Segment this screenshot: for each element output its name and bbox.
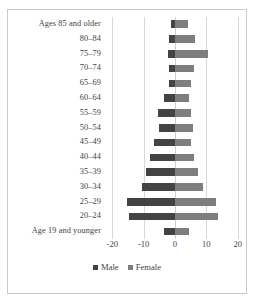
row-plot-area <box>106 135 244 150</box>
chart-frame: Ages 85 and older80–8475–7970–7465–6960–… <box>7 9 247 294</box>
legend-item-female[interactable]: Female <box>128 262 161 272</box>
age-group-label: 35–39 <box>8 165 101 180</box>
pyramid-row: 40–44 <box>8 150 246 165</box>
pyramid-row: 35–39 <box>8 165 246 180</box>
row-plot-area <box>106 76 244 91</box>
row-plot-area <box>106 121 244 136</box>
pyramid-row: 45–49 <box>8 135 246 150</box>
age-group-label: 20–24 <box>8 209 101 224</box>
pyramid-row: 55–59 <box>8 106 246 121</box>
square-swatch-icon <box>128 265 133 270</box>
bar-female <box>175 94 189 102</box>
legend-label: Female <box>136 262 161 272</box>
pyramid-row: 70–74 <box>8 61 246 76</box>
row-plot-area <box>106 106 244 121</box>
age-group-label: 65–69 <box>8 76 101 91</box>
legend-item-male[interactable]: Male <box>93 262 119 272</box>
bar-female <box>175 80 191 88</box>
row-plot-area <box>106 61 244 76</box>
chart-legend: MaleFemale <box>8 262 246 272</box>
bar-female <box>175 228 189 236</box>
pyramid-row: 20–24 <box>8 209 246 224</box>
row-plot-area <box>106 224 244 239</box>
bar-female <box>175 183 203 191</box>
pyramid-row: 25–29 <box>8 195 246 210</box>
bar-male <box>158 109 175 117</box>
age-group-label: 25–29 <box>8 195 101 210</box>
pyramid-row: 30–34 <box>8 180 246 195</box>
age-group-label: 45–49 <box>8 135 101 150</box>
bar-female <box>175 65 194 73</box>
row-plot-area <box>106 17 244 32</box>
bar-male <box>164 228 175 236</box>
pyramid-rows: Ages 85 and older80–8475–7970–7465–6960–… <box>8 17 246 239</box>
age-group-label: 30–34 <box>8 180 101 195</box>
bar-male <box>154 139 175 147</box>
row-plot-area <box>106 32 244 47</box>
bar-male <box>159 124 175 132</box>
x-tick-label: 20 <box>218 239 256 249</box>
pyramid-row: Ages 85 and older <box>8 17 246 32</box>
bar-male <box>164 94 175 102</box>
bar-female <box>175 50 208 58</box>
pyramid-row: 75–79 <box>8 47 246 62</box>
pyramid-row: 65–69 <box>8 76 246 91</box>
age-group-label: Ages 85 and older <box>8 17 101 32</box>
bar-male <box>150 154 175 162</box>
bar-male <box>127 198 175 206</box>
pyramid-row: 60–64 <box>8 91 246 106</box>
age-group-label: 60–64 <box>8 91 101 106</box>
row-plot-area <box>106 209 244 224</box>
pyramid-row: 80–84 <box>8 32 246 47</box>
row-plot-area <box>106 195 244 210</box>
legend-label: Male <box>101 262 119 272</box>
age-group-label: 40–44 <box>8 150 101 165</box>
bar-female <box>175 35 195 43</box>
square-swatch-icon <box>93 265 98 270</box>
bar-male <box>129 213 175 221</box>
bar-female <box>175 198 216 206</box>
bar-female <box>175 124 193 132</box>
bar-female <box>175 139 191 147</box>
row-plot-area <box>106 91 244 106</box>
age-group-label: 55–59 <box>8 106 101 121</box>
age-group-label: 80–84 <box>8 32 101 47</box>
bar-male <box>146 168 175 176</box>
age-group-label: 70–74 <box>8 61 101 76</box>
age-group-label: Age 19 and younger <box>8 224 101 239</box>
row-plot-area <box>106 165 244 180</box>
row-plot-area <box>106 180 244 195</box>
bar-male <box>142 183 175 191</box>
pyramid-row: 50–54 <box>8 121 246 136</box>
bar-female <box>175 168 198 176</box>
bar-female <box>175 20 188 28</box>
bar-female <box>175 109 191 117</box>
bar-female <box>175 213 218 221</box>
pyramid-row: Age 19 and younger <box>8 224 246 239</box>
age-group-label: 50–54 <box>8 121 101 136</box>
bar-male <box>168 50 175 58</box>
row-plot-area <box>106 150 244 165</box>
x-axis: -20-1001020 <box>106 239 244 255</box>
row-plot-area <box>106 47 244 62</box>
age-group-label: 75–79 <box>8 47 101 62</box>
bar-female <box>175 154 194 162</box>
